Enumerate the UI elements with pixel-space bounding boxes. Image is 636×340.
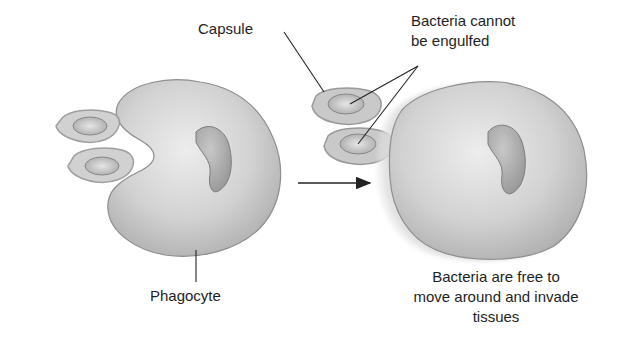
phagocyte-cell-right (377, 82, 586, 262)
cannot-engulf-label-line2: be engulfed (411, 32, 489, 49)
free-to-invade-label-line1: Bacteria are free to (396, 268, 596, 285)
capsule-label: Capsule (198, 20, 253, 37)
free-to-invade-label-line2: move around and invade (386, 288, 606, 305)
cannot-engulf-label-line1: Bacteria cannot (411, 12, 515, 29)
free-to-invade-label-line3: tissues (396, 308, 596, 325)
phagocyte-cell-left (108, 80, 281, 256)
capsule-leader-line (284, 32, 324, 92)
bacterium-left-top (56, 110, 120, 142)
cannot-engulf-leader-top (350, 66, 418, 104)
bacterium-left-bottom (68, 148, 134, 182)
phagocyte-label: Phagocyte (150, 287, 221, 304)
bacterium-middle-top (312, 88, 381, 124)
